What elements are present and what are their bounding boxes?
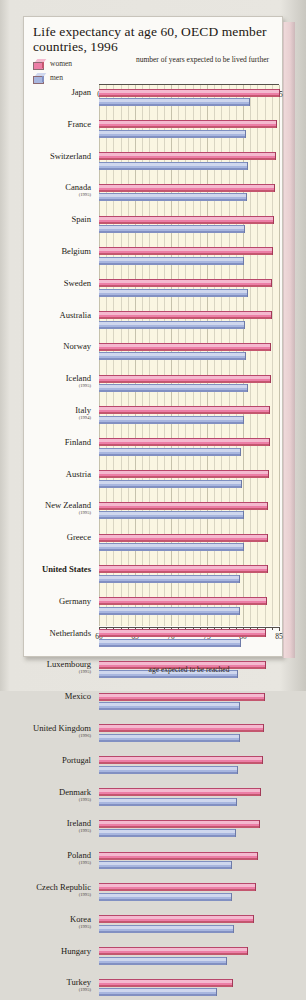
category-label: Portugal [0,753,95,785]
bar-men [99,352,245,360]
category-label: France [0,117,95,149]
bar-women [99,788,260,796]
bar-men [99,448,240,456]
bar-men [99,957,226,965]
category-label: Ireland(1995) [0,816,95,848]
category-year: (1996) [0,733,91,738]
category-name: New Zealand [0,498,91,510]
bar-row [99,753,279,785]
bar-row [99,308,279,340]
category-label: Denmark(1995) [0,785,95,817]
bar-women [99,565,267,573]
bar-men [99,480,241,488]
category-label: Australia [0,308,95,340]
bar-women [99,184,274,192]
category-year: (1995) [0,892,91,897]
category-name: Mexico [0,689,91,701]
legend-item-men: men [33,71,72,83]
category-label: Hungary [0,944,95,976]
bar-men [99,416,243,424]
category-name: Netherlands [0,626,91,638]
bar-men [99,543,243,551]
category-name: Italy [0,403,91,415]
bar-row [99,435,279,467]
bar-row [99,180,279,212]
category-label: Italy(1994) [0,403,95,435]
category-name: United States [0,562,91,574]
bar-women [99,470,268,478]
category-year: (1995) [0,192,91,197]
bar-row [99,85,279,117]
category-name: Korea [0,912,91,924]
category-name: Spain [0,212,91,224]
category-label-column: JapanFranceSwitzerlandCanada(1995)SpainB… [0,85,95,626]
bar-row [99,212,279,244]
bar-men [99,798,236,806]
bar-row [99,403,279,435]
category-year: (1995) [0,828,91,833]
top-axis-caption: number of years expected to be lived fur… [120,55,285,64]
category-label: Spain [0,212,95,244]
category-label: Germany [0,594,95,626]
bar-men [99,829,235,837]
bar-women [99,534,267,542]
category-name: Denmark [0,785,91,797]
category-year: (1995) [0,797,91,802]
legend-swatch-men-icon [33,73,44,82]
legend-swatch-women-icon [33,59,44,68]
category-name: Iceland [0,371,91,383]
chart-legend: women men [33,57,72,85]
bar-women [99,89,279,97]
category-name: Hungary [0,944,91,956]
bar-row [99,785,279,817]
bar-men [99,511,243,519]
category-label: Japan [0,85,95,117]
bar-row [99,371,279,403]
page-edge-sliver [283,22,295,658]
bar-women [99,693,264,701]
category-name: Finland [0,435,91,447]
category-year: (1995) [0,987,91,992]
bar-row [99,149,279,181]
category-label: Switzerland [0,149,95,181]
category-label: Belgium [0,244,95,276]
bar-men [99,575,239,583]
bar-men [99,988,216,996]
bar-men [99,289,247,297]
bar-men [99,925,233,933]
bar-row [99,276,279,308]
category-name: Japan [0,85,91,97]
bar-row [99,880,279,912]
bar-row [99,562,279,594]
bar-women [99,311,271,319]
category-name: Norway [0,339,91,351]
category-label: Poland(1995) [0,848,95,880]
category-year: (1995) [0,669,91,674]
bar-men [99,225,244,233]
bar-row [99,816,279,848]
bar-women [99,597,266,605]
category-label: Mexico [0,689,95,721]
category-label: Luxembourg(1995) [0,657,95,689]
bar-women [99,216,273,224]
bar-women [99,343,270,351]
bar-women [99,883,255,891]
bar-men [99,98,249,106]
bar-men [99,861,231,869]
category-name: Poland [0,848,91,860]
bar-men [99,130,245,138]
axis-tick [279,627,280,631]
category-name: Australia [0,308,91,320]
category-label: United Kingdom(1996) [0,721,95,753]
bar-row [99,339,279,371]
plot-area [99,85,279,626]
category-name: Switzerland [0,149,91,161]
category-label: Greece [0,530,95,562]
category-name: Belgium [0,244,91,256]
category-name: Canada [0,180,91,192]
bar-row [99,689,279,721]
bar-women [99,279,271,287]
category-label: Canada(1995) [0,180,95,212]
bar-row [99,944,279,976]
